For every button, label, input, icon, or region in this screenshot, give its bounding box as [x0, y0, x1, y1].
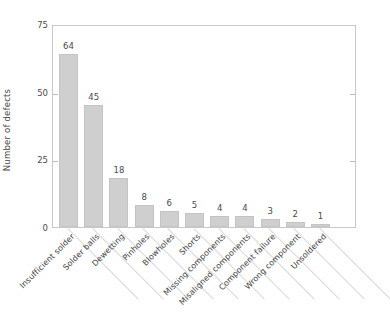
y-axis-tick-mark	[53, 94, 58, 95]
plot-area: 64451886544321	[52, 25, 356, 228]
y-axis-tick-mark	[350, 161, 355, 162]
bar	[210, 216, 229, 227]
y-tick-label: 50	[24, 88, 48, 98]
y-tick-label: 75	[24, 20, 48, 30]
y-axis-tick-mark	[350, 94, 355, 95]
bar	[84, 105, 103, 227]
y-axis-title: Number of defects	[2, 60, 16, 200]
bar	[235, 216, 254, 227]
bar	[261, 219, 280, 227]
bar	[109, 178, 128, 227]
bar	[160, 211, 179, 227]
x-axis-category-labels: Insufficient solderSolder ballsDewetting…	[0, 228, 374, 335]
bar	[311, 224, 330, 227]
bar	[135, 205, 154, 227]
bar	[286, 222, 305, 227]
bar-value-label: 1	[305, 211, 336, 221]
y-axis-tick-mark	[53, 161, 58, 162]
bar-value-label: 45	[78, 92, 109, 102]
bar	[185, 213, 204, 227]
y-tick-label: 25	[24, 155, 48, 165]
bar-value-label: 64	[53, 41, 84, 51]
bar-value-label: 18	[103, 165, 134, 175]
bar	[59, 54, 78, 227]
